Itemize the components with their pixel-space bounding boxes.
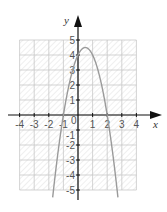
parabola-graph: -4-3-2-11234 54321-1-2-3-4-5 0 x y (0, 0, 167, 212)
y-axis-label: y (63, 14, 69, 26)
origin-label: 0 (71, 115, 77, 126)
y-tick-label: -4 (66, 170, 75, 181)
x-tick-label: -2 (44, 119, 53, 130)
y-tick-label: 5 (69, 35, 75, 46)
y-tick-label: 1 (69, 95, 75, 106)
y-tick-label: 4 (69, 50, 75, 61)
y-axis-arrow-icon (74, 15, 82, 27)
y-tick-label: -5 (66, 185, 75, 196)
x-tick-label: 4 (134, 119, 140, 130)
x-axis-label: x (152, 118, 158, 130)
x-tick-label: -1 (59, 119, 68, 130)
x-tick-label: 3 (119, 119, 125, 130)
x-tick-label: -4 (15, 119, 24, 130)
y-tick-label: -3 (66, 155, 75, 166)
x-tick-label: -3 (30, 119, 39, 130)
y-tick-label: -2 (66, 140, 75, 151)
x-tick-label: 1 (90, 119, 96, 130)
